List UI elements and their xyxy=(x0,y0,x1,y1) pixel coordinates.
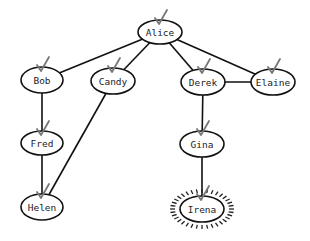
tree-diagram: AliceBobCandyDerekElaineFredGinaHelenIre… xyxy=(0,0,310,241)
highlight-ray xyxy=(219,221,222,224)
highlight-ray xyxy=(229,206,234,207)
highlight-ray xyxy=(191,224,193,228)
highlight-ray xyxy=(186,192,189,195)
highlight-ray xyxy=(225,199,229,201)
highlight-ray xyxy=(225,217,229,219)
highlight-ray xyxy=(211,224,213,228)
highlight-ray xyxy=(211,190,213,194)
highlight-ray xyxy=(196,225,197,229)
highlight-ray xyxy=(174,199,178,201)
highlight-ray xyxy=(196,189,197,193)
node-label: Irena xyxy=(188,204,217,215)
highlight-ray xyxy=(191,190,193,194)
highlight-ray xyxy=(229,212,234,213)
highlight-ray xyxy=(172,215,177,216)
highlight-ray xyxy=(181,194,184,197)
edges-layer xyxy=(42,32,273,209)
highlight-ray xyxy=(178,196,182,199)
highlight-ray xyxy=(186,223,189,226)
node-alice[interactable]: Alice xyxy=(138,10,182,44)
node-label: Alice xyxy=(146,27,175,38)
node-bob[interactable]: Bob xyxy=(21,57,63,93)
nodes-layer: AliceBobCandyDerekElaineFredGinaHelenIre… xyxy=(21,10,295,222)
highlight-ray xyxy=(171,212,176,213)
highlight-ray xyxy=(223,219,227,222)
highlight-ray xyxy=(216,192,219,195)
highlight-ray xyxy=(219,194,222,197)
highlight-ray xyxy=(172,202,177,203)
highlight-ray xyxy=(216,223,219,226)
node-label: Helen xyxy=(28,202,57,213)
node-elaine[interactable]: Elaine xyxy=(251,59,295,95)
node-label: Bob xyxy=(33,75,50,86)
node-label: Gina xyxy=(191,139,214,150)
node-label: Elaine xyxy=(256,77,291,88)
node-label: Derek xyxy=(189,77,218,88)
highlight-ray xyxy=(227,215,232,216)
node-label: Candy xyxy=(99,76,128,87)
highlight-ray xyxy=(171,206,176,207)
highlight-ray xyxy=(178,219,182,222)
highlight-ray xyxy=(227,202,232,203)
highlight-ray xyxy=(223,196,227,199)
highlight-ray xyxy=(174,217,178,219)
highlight-ray xyxy=(207,225,208,229)
node-label: Fred xyxy=(31,138,54,149)
node-candy[interactable]: Candy xyxy=(91,58,135,94)
highlight-ray xyxy=(181,221,184,224)
